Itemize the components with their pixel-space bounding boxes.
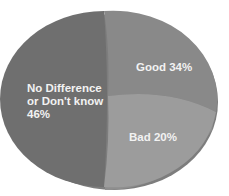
label-good: Good 34% <box>136 61 192 74</box>
label-no-difference-line1: No Difference <box>27 82 103 95</box>
label-no-difference-value: 46% <box>27 108 103 121</box>
label-bad: Bad 20% <box>129 131 177 144</box>
label-no-difference: No Difference or Don't know 46% <box>27 82 103 121</box>
label-no-difference-line2: or Don't know <box>27 95 103 108</box>
